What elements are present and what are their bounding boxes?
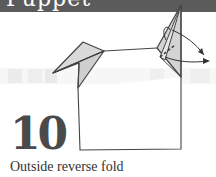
step-number: 10 [10, 112, 65, 156]
right-ear [157, 5, 181, 77]
step-caption: Outside reverse fold [10, 159, 124, 175]
left-ear [53, 42, 104, 88]
